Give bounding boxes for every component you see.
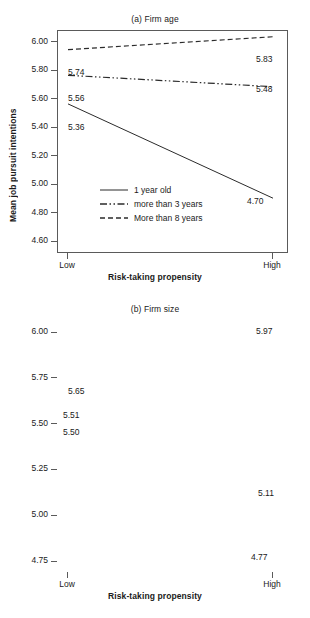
panel-a-legend-item: 1 year old: [98, 183, 203, 197]
panel-b-ytick-label: 5.75: [31, 372, 48, 382]
panel-a-datalabel-s3-left: 5.74: [68, 67, 85, 77]
panel-a-ytick-label: 5.80: [31, 64, 48, 74]
panel-a-xtick-label: Low: [59, 260, 75, 270]
panel-b-datalabel-s2-right: 5.11: [258, 488, 274, 498]
panel-a-legend-item: more than 3 years: [98, 197, 203, 211]
panel-b-xtick-label: High: [263, 579, 280, 589]
panel-b-ytick-mark: [51, 515, 57, 516]
panel-b-xtick-mark: [272, 572, 273, 578]
panel-a-ytick-label: 5.60: [31, 93, 48, 103]
panel-b-x-axis-label: Risk-taking propensity: [0, 591, 310, 601]
legend-key-dashed-icon: [98, 214, 130, 222]
chart-panel-firm-size: (b) Firm size Mean job pursuit intention…: [0, 300, 310, 618]
panel-b-ytick-mark: [51, 423, 57, 424]
legend-key-solid-icon: [98, 186, 130, 194]
panel-a-series-2-line: [68, 75, 273, 86]
panel-a-x-axis-label: Risk-taking propensity: [0, 272, 310, 282]
panel-a-ytick-label: 4.80: [31, 207, 48, 217]
panel-b-xtick-label: Low: [59, 579, 75, 589]
panel-b-title: (b) Firm size: [0, 304, 310, 314]
panel-a-ytick-label: 5.20: [31, 150, 48, 160]
panel-b-xtick-mark: [67, 572, 68, 578]
panel-b-datalabel-s3-right: 5.97: [256, 326, 273, 336]
panel-b-ytick-mark: [51, 469, 57, 470]
panel-a-ytick-label: 4.60: [31, 235, 48, 245]
panel-b-ytick-label: 4.75: [31, 555, 48, 565]
panel-a-datalabel-s3-right: 5.83: [256, 54, 273, 64]
panel-b-datalabel-s1-right: 4.77: [251, 552, 268, 562]
panel-b-datalabel-s1-left: 5.65: [68, 386, 85, 396]
panel-a-ytick-label: 5.00: [31, 178, 48, 188]
chart-panel-firm-age: (a) Firm age Mean job pursuit intentions…: [0, 0, 310, 300]
panel-a-ytick-label: 6.00: [31, 36, 48, 46]
legend-key-dash-dot-icon: [98, 200, 130, 208]
panel-a-xtick-label: High: [263, 260, 280, 270]
panel-a-xtick-mark: [272, 253, 273, 259]
panel-a-plot-area: 1 year old more than 3 years More than 8…: [57, 30, 288, 253]
panel-b-ytick-mark: [51, 332, 57, 333]
panel-b-ytick-mark: [51, 377, 57, 378]
panel-a-legend-label: More than 8 years: [134, 213, 203, 223]
panel-b-datalabel-s3-left: 5.51: [63, 410, 80, 420]
panel-a-series-3-line: [68, 37, 273, 50]
panel-b-datalabel-s2-left: 5.50: [63, 427, 80, 437]
panel-a-legend-label: more than 3 years: [134, 199, 203, 209]
panel-a-legend-item: More than 8 years: [98, 211, 203, 225]
panel-b-ytick-label: 5.00: [31, 509, 48, 519]
panel-b-ytick-mark: [51, 561, 57, 562]
panel-a-legend: 1 year old more than 3 years More than 8…: [98, 183, 203, 225]
panel-a-datalabel-s2-left: 5.56: [68, 93, 85, 103]
panel-b-ytick-label: 5.50: [31, 418, 48, 428]
panel-a-legend-label: 1 year old: [134, 185, 171, 195]
panel-b-ytick-label: 5.25: [31, 463, 48, 473]
panel-a-xtick-mark: [67, 253, 68, 259]
panel-a-datalabel-s1-right: 4.70: [247, 196, 264, 206]
panel-b-ytick-label: 6.00: [31, 326, 48, 336]
panel-a-datalabel-s2-right: 5.48: [256, 84, 273, 94]
panel-a-title: (a) Firm age: [0, 14, 310, 24]
panel-a-ytick-label: 5.40: [31, 121, 48, 131]
panel-a-datalabel-s1-left: 5.36: [68, 122, 85, 132]
panel-a-y-axis-label: Mean job pursuit intentions: [8, 62, 18, 222]
